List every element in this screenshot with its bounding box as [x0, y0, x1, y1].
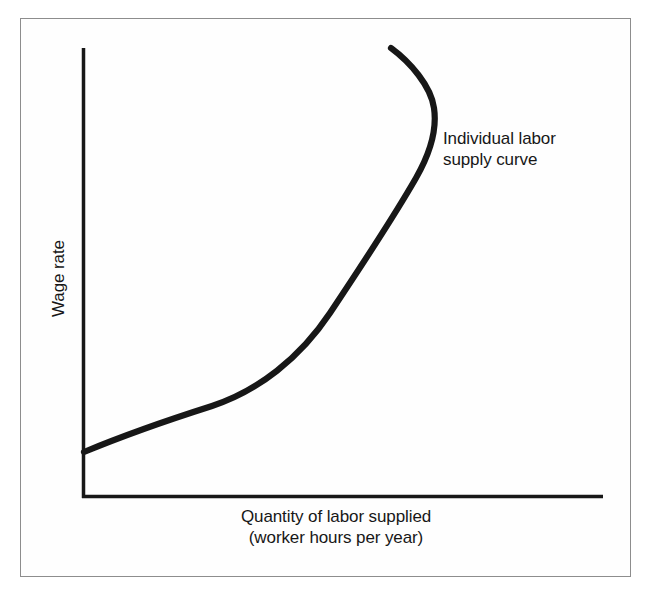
curve-annotation: Individual labor supply curve: [443, 128, 556, 170]
x-axis-label-line-2: (worker hours per year): [136, 527, 536, 548]
y-axis-label: Wage rate: [48, 219, 69, 339]
curve-annotation-line-2: supply curve: [443, 149, 556, 170]
labor-supply-curve: [84, 48, 435, 452]
curve-annotation-line-1: Individual labor: [443, 128, 556, 149]
x-axis-label-line-1: Quantity of labor supplied: [136, 506, 536, 527]
x-axis-label: Quantity of labor supplied (worker hours…: [136, 506, 536, 548]
figure-canvas: Individual labor supply curve Quantity o…: [0, 0, 652, 593]
plot-area: [0, 0, 652, 593]
